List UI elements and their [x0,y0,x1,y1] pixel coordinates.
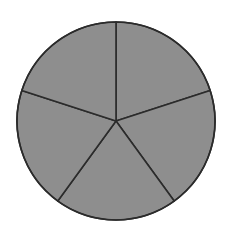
fraction-circle-diagram [0,0,233,239]
circle-slices [17,22,215,220]
